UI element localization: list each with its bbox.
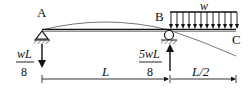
dimension-label-l-half: L/2 — [191, 64, 210, 79]
roller-support-icon — [161, 31, 177, 45]
reaction-a-value: wL 8 — [16, 47, 34, 79]
reaction-a-denominator: 8 — [21, 65, 27, 79]
load-label-w: w — [200, 0, 208, 13]
reaction-a-numerator: wL — [17, 47, 32, 61]
point-label-c: C — [232, 32, 241, 47]
reaction-arrow-a-icon — [38, 44, 46, 68]
point-label-a: A — [37, 5, 47, 20]
beam — [42, 30, 236, 32]
reaction-b-denominator: 8 — [147, 65, 153, 79]
reaction-arrow-b-icon — [166, 44, 174, 71]
dimension-label-l: L — [101, 64, 109, 79]
beam-diagram: A B C w wL 8 5wL 8 L L/2 — [0, 0, 252, 91]
reaction-b-value: 5wL 8 — [139, 47, 162, 79]
point-label-b: B — [155, 9, 164, 24]
distributed-load-icon — [169, 12, 239, 29]
pin-support-icon — [34, 31, 50, 44]
reaction-b-numerator: 5wL — [139, 47, 160, 61]
